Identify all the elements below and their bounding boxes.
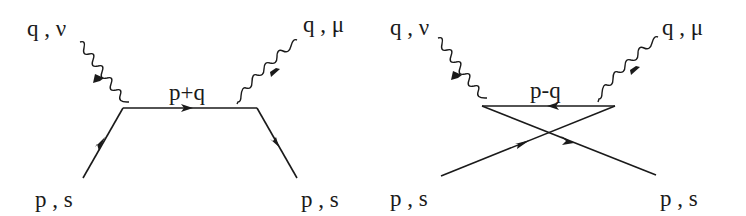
photon-in-arrow-icon (451, 71, 462, 80)
label-photon-in: q , ν (390, 15, 429, 40)
photon-in-arrow-icon (93, 74, 104, 83)
feynman-diagrams: q , ν q , μ p+q p , s p , s q , ν q , μ … (0, 0, 746, 216)
fermion-in-line (83, 108, 123, 178)
label-internal: p-q (530, 78, 561, 103)
diagram-direct: q , ν q , μ p+q p , s p , s (27, 12, 344, 212)
label-fermion-out: p , s (301, 187, 339, 212)
label-fermion-in: p , s (35, 187, 73, 212)
label-photon-in: q , ν (27, 16, 66, 41)
fermion-out-arrow-icon (561, 136, 574, 145)
diagram-crossed: q , ν q , μ p-q p , s p , s (390, 15, 703, 211)
label-fermion-out: p , s (660, 186, 698, 211)
photon-in-line (438, 38, 487, 98)
label-fermion-in: p , s (390, 186, 428, 211)
label-photon-out: q , μ (303, 12, 344, 37)
label-internal: p+q (169, 80, 205, 105)
photon-out-arrow-icon (630, 66, 640, 75)
photon-out-arrow-icon (270, 68, 280, 77)
label-photon-out: q , μ (662, 15, 703, 40)
photon-out-line (598, 37, 658, 102)
photon-in-line (80, 42, 129, 102)
photon-out-line (237, 40, 297, 104)
